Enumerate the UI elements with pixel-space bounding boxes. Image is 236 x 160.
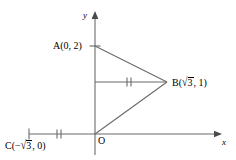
point-c-label-suffix: , 0) [32,140,45,151]
segment-b-o [95,82,167,134]
origin-label: O [98,136,105,146]
point-b-label-suffix: , 1) [194,77,207,88]
point-c-radicand: 3 [26,140,32,151]
y-axis-arrowhead [92,11,99,19]
point-a-label: A(0, 2) [53,41,82,51]
point-c-label: C(−√3, 0) [5,140,45,151]
x-axis-arrowhead [214,131,222,138]
x-axis-label: x [222,138,226,147]
point-b-radical: √3 [182,77,194,88]
point-b-radicand: 3 [188,77,194,88]
point-b-label-prefix: B( [172,77,182,88]
point-c-radical: √3 [21,140,33,151]
y-axis-label: y [83,11,87,20]
point-c-label-prefix: C(− [5,140,21,151]
segment-a-b [95,46,167,82]
point-b-label: B(√3, 1) [172,77,207,88]
geometry-figure: y x O A(0, 2) B(√3, 1) C(−√3, 0) [0,0,236,160]
radical-sign-icon: √ [182,76,188,89]
radical-sign-icon: √ [21,139,27,152]
